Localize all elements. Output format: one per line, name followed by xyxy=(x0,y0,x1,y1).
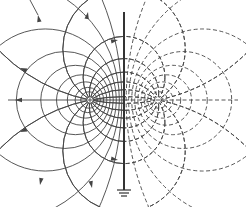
ground-icon xyxy=(117,190,131,196)
image-charge-diagram xyxy=(0,0,246,207)
